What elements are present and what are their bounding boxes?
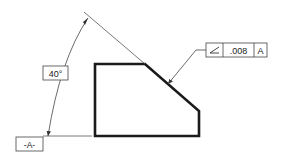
extension-line xyxy=(84,12,145,64)
datum-feature-symbol: -A- xyxy=(16,137,43,151)
datum-label: -A- xyxy=(24,140,36,150)
datum-reference: A xyxy=(257,46,263,56)
leader-line xyxy=(168,50,206,84)
tolerance-value: .008 xyxy=(230,46,248,56)
angle-dimension: 40° xyxy=(43,66,68,80)
angle-value: 40° xyxy=(49,69,63,79)
technical-drawing: 40° -A- .008 A xyxy=(0,0,281,159)
part-outline xyxy=(95,64,199,136)
feature-control-frame: .008 A xyxy=(206,43,267,57)
